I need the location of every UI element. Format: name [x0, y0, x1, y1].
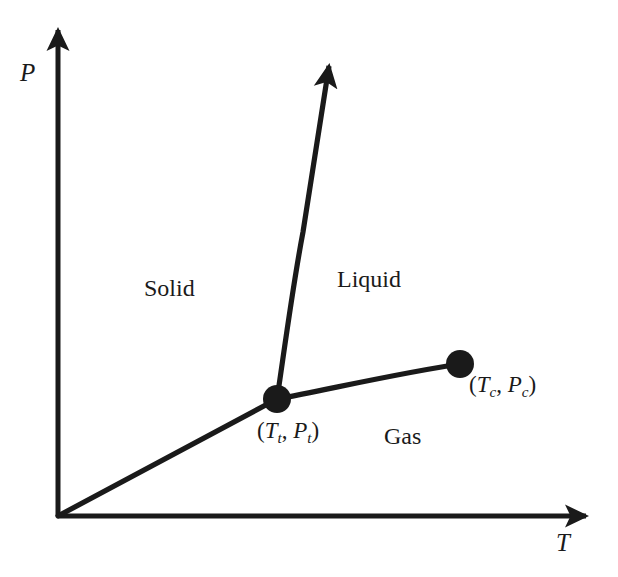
triple-p-symbol: P	[293, 418, 307, 443]
triple-point-marker	[263, 385, 291, 413]
critical-p-subscript: c	[522, 383, 529, 400]
triple-close-paren: )	[311, 418, 319, 443]
critical-p-symbol: P	[508, 372, 522, 397]
triple-point-label: (Tt, Pt)	[257, 419, 319, 442]
region-label-gas: Gas	[384, 424, 421, 448]
critical-t-subscript: c	[489, 383, 496, 400]
triple-comma: ,	[282, 418, 294, 443]
phase-diagram-canvas	[0, 0, 618, 577]
critical-open-paren: (	[469, 372, 477, 397]
critical-t-symbol: T	[477, 372, 490, 397]
sublimation-curve	[58, 399, 277, 516]
pressure-axis-label: P	[20, 60, 35, 85]
fusion-curve	[277, 66, 329, 399]
critical-comma: ,	[496, 372, 508, 397]
temperature-axis-label: T	[556, 530, 570, 555]
triple-open-paren: (	[257, 418, 265, 443]
triple-t-subscript: t	[277, 429, 281, 446]
vaporization-curve	[277, 364, 460, 399]
critical-close-paren: )	[529, 372, 537, 397]
region-label-solid: Solid	[144, 276, 195, 300]
triple-p-subscript: t	[307, 429, 311, 446]
region-label-liquid: Liquid	[337, 267, 401, 291]
phase-diagram-figure: P T Solid Liquid Gas (Tt, Pt) (Tc, Pc)	[0, 0, 618, 577]
triple-t-symbol: T	[265, 418, 278, 443]
critical-point-label: (Tc, Pc)	[469, 373, 536, 396]
